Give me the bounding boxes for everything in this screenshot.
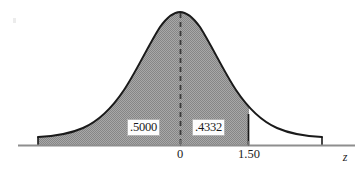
- area-label-right: .4332: [192, 119, 225, 136]
- x-tick-label-zero: 0: [170, 148, 190, 161]
- area-label-left: .5000: [127, 119, 160, 136]
- x-tick-label-critical: 1.50: [230, 148, 268, 161]
- normal-curve-plot: [0, 0, 362, 169]
- normal-curve-figure: .5000 .4332 0 1.50 z: [0, 0, 362, 169]
- x-axis-variable-label: z: [337, 151, 353, 163]
